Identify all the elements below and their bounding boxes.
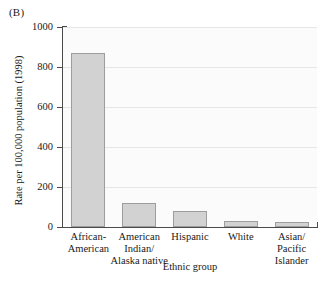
y-tick-mark bbox=[57, 67, 63, 68]
gridline bbox=[63, 27, 317, 28]
y-axis-title: Rate per 100,000 population (1998) bbox=[13, 36, 24, 226]
plot-area bbox=[63, 27, 317, 227]
figure-panel-b: (B) Rate per 100,000 population (1998) 0… bbox=[0, 0, 329, 282]
y-tick-mark bbox=[57, 107, 63, 108]
category-label-line: Pacific bbox=[260, 243, 323, 255]
y-tick-label: 0 bbox=[48, 222, 53, 232]
panel-label: (B) bbox=[9, 6, 24, 18]
y-tick-label: 800 bbox=[37, 62, 53, 72]
bar bbox=[71, 53, 105, 227]
x-axis-right-cap bbox=[317, 222, 318, 228]
bar bbox=[122, 203, 156, 227]
bar bbox=[173, 211, 207, 227]
y-tick-mark bbox=[57, 187, 63, 188]
x-axis-title: Ethnic group bbox=[63, 261, 317, 272]
y-tick-label: 600 bbox=[37, 102, 53, 112]
y-tick-mark bbox=[57, 227, 63, 228]
y-tick-mark bbox=[57, 147, 63, 148]
y-tick-label: 1000 bbox=[32, 22, 53, 32]
y-tick-mark bbox=[57, 27, 63, 28]
y-tick-label: 400 bbox=[37, 142, 53, 152]
category-label-line: Indian/ bbox=[108, 243, 171, 255]
x-axis-line bbox=[62, 227, 318, 228]
y-axis-line bbox=[62, 26, 63, 228]
y-tick-label: 200 bbox=[37, 182, 53, 192]
category-label-line: Asian/ bbox=[260, 231, 323, 243]
